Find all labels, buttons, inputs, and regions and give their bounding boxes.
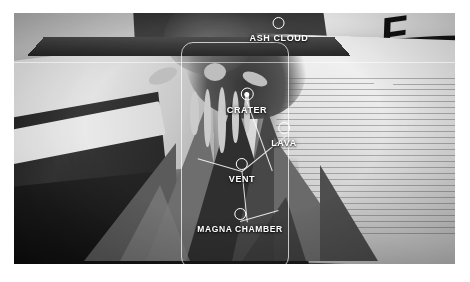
- volcano-facet-a: [120, 185, 190, 261]
- hotspot-label-vent: VENT: [229, 174, 255, 184]
- hotspot-magna-chamber[interactable]: MAGNA CHAMBER: [197, 208, 282, 234]
- ring-marker-filled-icon[interactable]: [241, 88, 254, 101]
- ring-marker-icon[interactable]: [278, 122, 290, 134]
- ar-screen: F: [0, 0, 470, 282]
- ring-marker-icon[interactable]: [236, 158, 248, 170]
- volcano-facet-far-right: [320, 165, 378, 261]
- hotspot-label-ash-cloud: ASH CLOUD: [250, 33, 309, 43]
- hotspot-vent[interactable]: VENT: [229, 158, 255, 184]
- ring-marker-icon[interactable]: [273, 17, 285, 29]
- lava-splash-left: [146, 64, 179, 89]
- hotspot-label-lava: LAVA: [271, 138, 297, 148]
- ring-marker-icon[interactable]: [234, 208, 246, 220]
- hotspot-label-crater: CRATER: [227, 105, 267, 115]
- ar-camera-viewport[interactable]: F: [14, 13, 455, 264]
- hotspot-crater[interactable]: CRATER: [227, 88, 267, 115]
- hotspot-label-magna-chamber: MAGNA CHAMBER: [197, 224, 282, 234]
- hotspot-lava[interactable]: LAVA: [271, 122, 297, 148]
- hotspot-ash-cloud[interactable]: ASH CLOUD: [250, 17, 309, 43]
